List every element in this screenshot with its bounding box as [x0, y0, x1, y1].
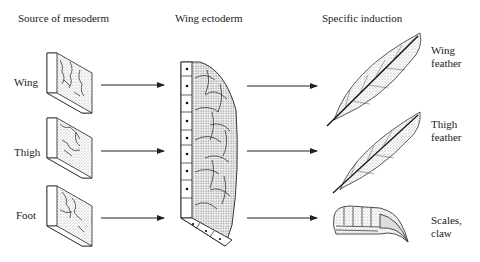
mesoderm-block-wing-icon — [47, 53, 92, 113]
wing-feather-icon — [327, 33, 421, 126]
mesoderm-block-thigh-icon — [47, 118, 92, 178]
scales-claw-icon — [333, 206, 408, 242]
wing-ectoderm-tissue-icon — [181, 62, 237, 246]
diagram-canvas — [0, 0, 480, 262]
mesoderm-block-foot-icon — [47, 186, 92, 246]
thigh-feather-icon — [333, 112, 420, 193]
